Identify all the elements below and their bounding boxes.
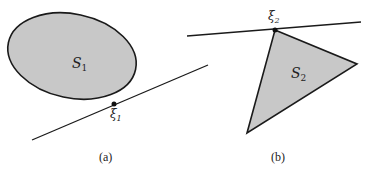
point-label-xi1: ξ1 [110,107,122,123]
tangent-point-xi1 [112,102,117,107]
tangent-point-xi2 [273,28,278,33]
caption-a: (a) [99,150,112,164]
point-label-xi2: ξ2 [268,9,280,25]
figure-canvas: S1 ξ1 (a) S2 ξ2 (b) [0,0,374,171]
panel-b: S2 ξ2 (b) [187,9,361,164]
caption-b: (b) [271,150,285,164]
panel-a: S1 ξ1 (a) [0,1,208,164]
